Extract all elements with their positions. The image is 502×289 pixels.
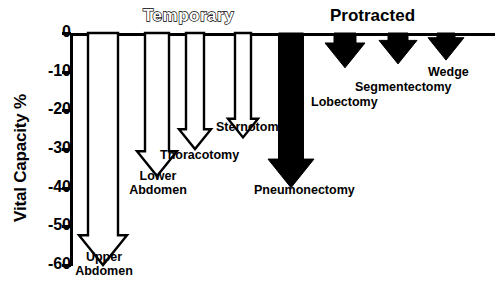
y-tick-mark [62,187,71,190]
y-tick-row: -40 [0,187,71,190]
label-lobectomy: Lobectomy [311,96,378,110]
label-wedge: Wedge [428,66,469,80]
vital-capacity-arrow-chart: Vital Capacity % 0-10-20-30-40-50-60 Tem… [0,0,502,289]
y-tick-row: -10 [0,71,71,74]
group-title-temporary: Temporary [143,7,234,24]
label-pneumonectomy: Pneumonectomy [254,184,355,198]
y-tick-row: -50 [0,225,71,228]
arrow-pneumonectomy [264,29,318,192]
arrow-lobectomy [321,29,369,72]
y-tick-mark [62,225,71,228]
arrow-wedge [424,29,468,64]
label-segmentectomy: Segmentectomy [355,81,452,95]
y-tick-row: -30 [0,148,71,151]
label-lower-abdomen: Lower Abdomen [120,170,196,197]
label-upper-abdomen: Upper Abdomen [64,251,144,278]
arrow-thoracotomy [175,29,215,153]
y-tick-mark [62,148,71,151]
y-tick-mark [62,109,71,112]
y-tick-row: -20 [0,109,71,112]
arrow-segmentectomy [375,29,421,68]
y-tick-row: 0 [0,32,71,35]
arrow-upper-abdomen [75,29,131,269]
group-title-protracted: Protracted [330,7,415,24]
y-tick-mark [62,32,71,35]
label-thoracotomy: Thoracotomy [160,149,239,163]
label-sternotomy: Sternotomy [216,121,285,135]
y-tick-row: -60 [0,264,71,267]
y-tick-mark [62,71,71,74]
